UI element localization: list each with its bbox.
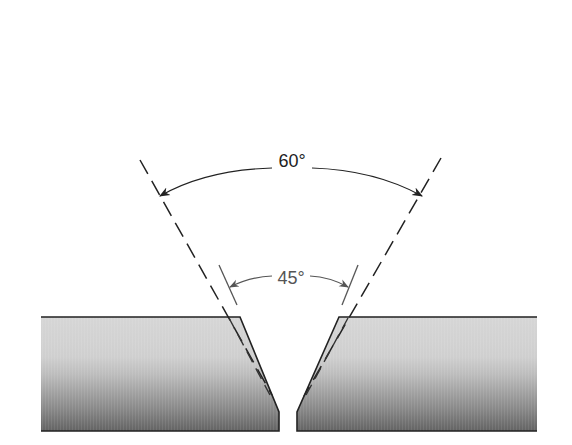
arc-60-right: [312, 168, 422, 196]
arc-45-left: [230, 276, 272, 287]
angle-label-45: 45°: [277, 268, 304, 288]
weld-bevel-diagram: 60° 45°: [0, 0, 572, 445]
arc-60-left: [160, 168, 272, 196]
angle-label-60: 60°: [278, 151, 305, 171]
right-plate: [297, 317, 537, 431]
left-plate: [41, 317, 279, 431]
arc-45-right: [310, 276, 348, 287]
